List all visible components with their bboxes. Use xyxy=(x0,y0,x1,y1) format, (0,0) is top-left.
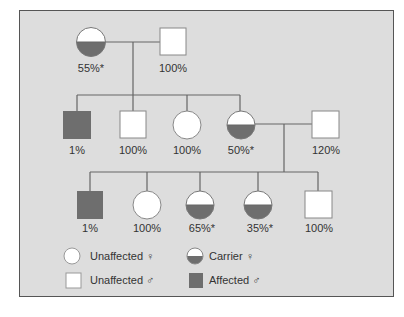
percent-label: 100% xyxy=(119,144,147,156)
percent-label: 65%* xyxy=(189,222,216,234)
generation-1: 55%* 100% xyxy=(75,28,187,75)
affected-male-legend-icon xyxy=(189,273,203,288)
carrier-female-symbol xyxy=(243,191,273,220)
carrier-female-symbol xyxy=(185,191,215,220)
legend-label: Unaffected ♂ xyxy=(90,274,154,286)
percent-label: 1% xyxy=(69,144,85,156)
unaffected-male-symbol xyxy=(160,28,186,55)
percent-label: 100% xyxy=(173,144,201,156)
percent-label: 120% xyxy=(312,144,340,156)
legend-label: Carrier ♀ xyxy=(209,250,254,262)
percent-label: 35%* xyxy=(247,222,274,234)
affected-male-symbol xyxy=(77,191,103,219)
carrier-female-symbol xyxy=(226,111,256,140)
legend: Unaffected ♀ Carrier ♀ Unaffected ♂ Affe… xyxy=(64,248,260,288)
generation-2: 1% 100% 100% 50%* 120% xyxy=(63,111,340,156)
percent-label: 100% xyxy=(159,62,187,74)
unaffected-female-legend-icon xyxy=(64,248,80,264)
pedigree-chart: 55%* 100% 1% 100% 100% 50%* 120% 1% 100% xyxy=(0,0,404,317)
percent-label: 100% xyxy=(133,222,161,234)
unaffected-female-symbol xyxy=(173,111,201,139)
percent-label: 55%* xyxy=(78,62,105,74)
carrier-female-symbol xyxy=(75,28,107,59)
percent-label: 100% xyxy=(305,222,333,234)
carrier-female-legend-icon xyxy=(186,248,204,265)
percent-label: 50%* xyxy=(228,144,255,156)
generation-3: 1% 100% 65%* 35%* 100% xyxy=(77,191,333,234)
legend-label: Affected ♂ xyxy=(209,274,260,286)
unaffected-female-symbol xyxy=(133,191,161,219)
unaffected-male-symbol xyxy=(120,111,146,138)
affected-male-symbol xyxy=(63,111,91,139)
legend-label: Unaffected ♀ xyxy=(90,250,154,262)
percent-label: 1% xyxy=(82,222,98,234)
unaffected-male-legend-icon xyxy=(66,273,81,288)
unaffected-male-symbol xyxy=(305,191,332,218)
unaffected-male-symbol xyxy=(312,111,339,138)
